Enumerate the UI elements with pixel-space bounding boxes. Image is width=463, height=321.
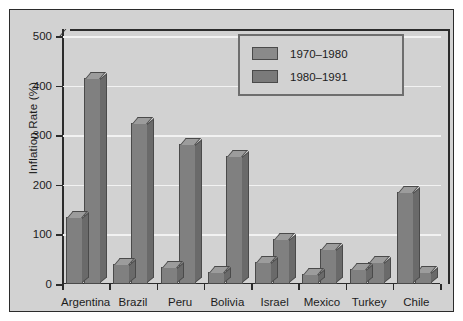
bar [226, 156, 243, 284]
gridline [63, 185, 441, 187]
chart-figure: Inflation Rate (%) 0100200300400500 Arge… [0, 0, 463, 321]
legend-swatch-icon [252, 47, 278, 60]
x-axis-category-label: Mexico [304, 296, 340, 308]
x-axis-category-label: Israel [261, 296, 289, 308]
x-axis-tick [157, 284, 159, 290]
y-axis-tick-label: 400 [12, 80, 52, 92]
y-axis-tick [56, 36, 62, 38]
y-axis-tick [56, 185, 62, 187]
legend-item: 1980–1991 [252, 65, 402, 88]
x-axis-category-label: Chile [403, 296, 429, 308]
y-axis-tick [56, 86, 62, 88]
x-axis-tick [298, 284, 300, 290]
bar [66, 217, 83, 284]
bar [208, 272, 225, 284]
x-axis-category-label: Peru [168, 296, 192, 308]
gridline [63, 135, 441, 137]
y-axis-tick-label: 500 [12, 30, 52, 42]
bar [397, 192, 414, 284]
plot-back-wall-top [70, 29, 448, 31]
x-axis-category-label: Argentina [61, 296, 110, 308]
y-axis-tick [56, 234, 62, 236]
gridline [63, 234, 441, 236]
x-axis-tick [440, 284, 442, 290]
bar [350, 269, 367, 284]
plot-back-wall-right [448, 29, 450, 284]
legend-label: 1970–1980 [290, 48, 348, 60]
y-axis-tick-label: 300 [12, 129, 52, 141]
chart-legend: 1970–1980 1980–1991 [238, 34, 404, 96]
x-axis-category-label: Turkey [352, 296, 387, 308]
x-axis-tick [62, 284, 64, 290]
x-axis-tick [393, 284, 395, 290]
bar [255, 262, 272, 284]
y-axis-line [62, 29, 64, 284]
bar [302, 274, 319, 284]
legend-item: 1970–1980 [252, 42, 402, 65]
bar [113, 264, 130, 284]
x-axis-category-label: Bolivia [210, 296, 244, 308]
bar [320, 249, 337, 284]
x-axis-tick [109, 284, 111, 290]
legend-label: 1980–1991 [290, 71, 348, 83]
legend-swatch-icon [252, 70, 278, 83]
x-axis-tick [204, 284, 206, 290]
x-axis-tick [346, 284, 348, 290]
y-axis-tick-label: 0 [12, 278, 52, 290]
x-axis-tick [251, 284, 253, 290]
y-axis-tick [56, 135, 62, 137]
x-axis-category-label: Brazil [118, 296, 147, 308]
y-axis-tick-label: 100 [12, 228, 52, 240]
y-axis-tick-label: 200 [12, 179, 52, 191]
bar [161, 267, 178, 284]
chart-panel: Inflation Rate (%) 0100200300400500 Arge… [9, 9, 454, 312]
